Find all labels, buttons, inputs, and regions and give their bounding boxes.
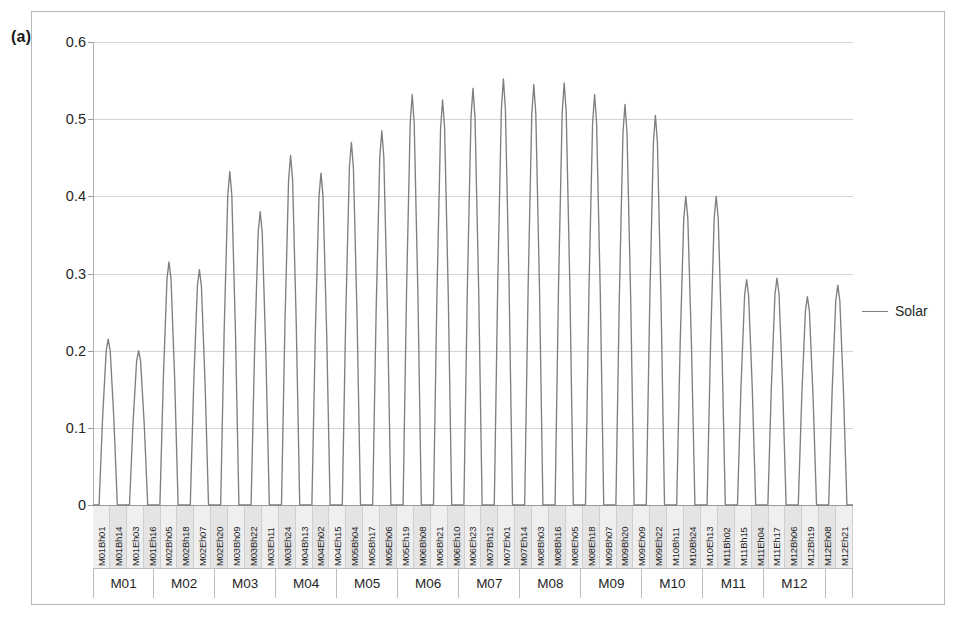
x-tick-label: M04Eh15 bbox=[332, 527, 343, 566]
x-tick-cell: M06Eh10 bbox=[448, 506, 465, 568]
x-tick-cell: M09Eh09 bbox=[633, 506, 650, 568]
x-tick-cell: M11Eh17 bbox=[769, 506, 786, 568]
x-tick-cell: M12Bh19 bbox=[802, 506, 819, 568]
month-group-m01: M01 bbox=[93, 569, 154, 598]
x-tick-cell: M04Eh02 bbox=[313, 506, 330, 568]
legend-label-solar: Solar bbox=[895, 303, 928, 319]
x-tick-label: M06Eh10 bbox=[450, 527, 461, 566]
x-tick-label: M04Bh13 bbox=[298, 527, 309, 566]
x-tick-cell: M03Eh11 bbox=[262, 506, 279, 568]
x-tick-label: M03Eh24 bbox=[281, 527, 292, 566]
month-group-m05: M05 bbox=[337, 569, 398, 598]
x-axis-month-groups: M01M02M03M04M05M06M07M08M09M10M11M12 bbox=[93, 568, 853, 598]
x-tick-label: M06Eh23 bbox=[467, 527, 478, 566]
x-tick-label: M11Bh15 bbox=[737, 527, 748, 566]
x-tick-cell: M10Eh13 bbox=[701, 506, 718, 568]
x-tick-cell: M05Eh06 bbox=[380, 506, 397, 568]
x-tick-label: M08Eh05 bbox=[568, 527, 579, 566]
x-tick-label: M01Bh01 bbox=[95, 527, 106, 566]
y-tick-label: 0.6 bbox=[40, 34, 86, 50]
x-tick-cell: M06Bh08 bbox=[414, 506, 431, 568]
x-tick-label: M07Eh01 bbox=[501, 527, 512, 566]
x-tick-label: M02Bh18 bbox=[180, 527, 191, 566]
x-tick-cell: M08Bh16 bbox=[549, 506, 566, 568]
x-tick-label: M03Bh09 bbox=[231, 527, 242, 566]
y-tick-label: 0.5 bbox=[40, 111, 86, 127]
x-tick-label: M12Bh06 bbox=[788, 527, 799, 566]
x-tick-label: M12Bh19 bbox=[805, 527, 816, 566]
legend: Solar bbox=[862, 303, 928, 319]
x-tick-label: M09Bh07 bbox=[602, 527, 613, 566]
x-tick-cell: M11Bh02 bbox=[718, 506, 735, 568]
x-tick-cell: M11Eh04 bbox=[752, 506, 769, 568]
x-tick-cell: M09Bh07 bbox=[600, 506, 617, 568]
month-group-m02: M02 bbox=[154, 569, 215, 598]
x-tick-label: M05Eh19 bbox=[399, 527, 410, 566]
x-tick-cell: M12Eh08 bbox=[819, 506, 836, 568]
x-tick-cell: M03Bh22 bbox=[245, 506, 262, 568]
y-tick-label: 0.3 bbox=[40, 266, 86, 282]
plot-area bbox=[93, 42, 853, 505]
x-tick-label: M05Bh17 bbox=[366, 527, 377, 566]
x-tick-label: M11Eh17 bbox=[771, 527, 782, 566]
x-tick-cell: M02Bh05 bbox=[161, 506, 178, 568]
month-group-m07: M07 bbox=[459, 569, 520, 598]
x-tick-label: M05Bh04 bbox=[349, 527, 360, 566]
month-group-m10: M10 bbox=[642, 569, 703, 598]
x-tick-cell: M11Bh15 bbox=[735, 506, 752, 568]
month-group-m03: M03 bbox=[215, 569, 276, 598]
y-tick-label: 0.4 bbox=[40, 188, 86, 204]
month-group-m06: M06 bbox=[398, 569, 459, 598]
x-tick-cell: M08Eh05 bbox=[566, 506, 583, 568]
x-tick-cell: M01Bh01 bbox=[93, 506, 110, 568]
x-tick-label: M10Eh13 bbox=[703, 527, 714, 566]
x-tick-label: M10Bh11 bbox=[670, 527, 681, 566]
series-line-solar bbox=[93, 79, 853, 505]
month-group-m09: M09 bbox=[581, 569, 642, 598]
figure-panel-a: (a) 0.60.50.40.30.20.10 M01Bh01M01Bh14M0… bbox=[0, 0, 966, 640]
x-tick-label: M04Eh02 bbox=[315, 527, 326, 566]
legend-line-swatch bbox=[862, 311, 888, 312]
x-tick-label: M02Bh05 bbox=[163, 527, 174, 566]
x-tick-cell: M03Bh09 bbox=[228, 506, 245, 568]
month-group-m08: M08 bbox=[520, 569, 581, 598]
x-tick-cell: M07Bh12 bbox=[481, 506, 498, 568]
x-tick-cell: M09Eh22 bbox=[650, 506, 667, 568]
x-tick-cell: M07Eh01 bbox=[498, 506, 515, 568]
x-tick-cell: M01Eh16 bbox=[144, 506, 161, 568]
x-tick-label: M06Bh21 bbox=[433, 527, 444, 566]
x-tick-cell: M03Eh24 bbox=[279, 506, 296, 568]
x-tick-cell: M02Eh20 bbox=[211, 506, 228, 568]
x-tick-cell: M02Eh07 bbox=[194, 506, 211, 568]
x-tick-cell: M02Bh18 bbox=[177, 506, 194, 568]
x-tick-cell: M01Bh14 bbox=[110, 506, 127, 568]
y-tick-label: 0.2 bbox=[40, 343, 86, 359]
x-tick-label: M12Eh21 bbox=[839, 527, 850, 566]
x-tick-cell: M10Bh24 bbox=[684, 506, 701, 568]
x-tick-label: M11Eh04 bbox=[754, 527, 765, 566]
x-tick-label: M03Eh11 bbox=[264, 527, 275, 566]
y-tick-label: 0 bbox=[40, 497, 86, 513]
x-tick-label: M09Eh09 bbox=[636, 527, 647, 566]
y-axis-tick-labels: 0.60.50.40.30.20.10 bbox=[40, 42, 86, 505]
x-tick-label: M08Eh18 bbox=[585, 527, 596, 566]
x-tick-cell: M04Bh13 bbox=[296, 506, 313, 568]
series-solar bbox=[93, 42, 853, 505]
x-tick-label: M07Eh14 bbox=[518, 527, 529, 566]
x-tick-label: M01Eh16 bbox=[146, 527, 157, 566]
x-tick-cell: M01Eh03 bbox=[127, 506, 144, 568]
x-tick-cell: M10Bh11 bbox=[667, 506, 684, 568]
x-tick-cell: M05Eh19 bbox=[397, 506, 414, 568]
month-group-tail bbox=[826, 569, 853, 598]
x-tick-label: M08Bh03 bbox=[535, 527, 546, 566]
x-tick-label: M08Bh16 bbox=[551, 527, 562, 566]
x-tick-label: M06Bh08 bbox=[416, 527, 427, 566]
x-tick-label: M12Eh08 bbox=[822, 527, 833, 566]
x-tick-label: M09Eh22 bbox=[653, 527, 664, 566]
x-tick-label: M10Bh24 bbox=[687, 527, 698, 566]
x-tick-cell: M07Eh14 bbox=[515, 506, 532, 568]
x-tick-cell: M05Bh04 bbox=[346, 506, 363, 568]
month-group-m12: M12 bbox=[764, 569, 825, 598]
x-tick-cell: M06Bh21 bbox=[431, 506, 448, 568]
x-tick-cell: M12Eh21 bbox=[836, 506, 853, 568]
